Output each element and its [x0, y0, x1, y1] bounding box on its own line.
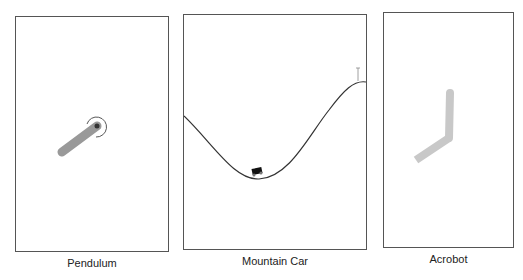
acrobot-caption: Acrobot: [383, 253, 514, 265]
mountain-car-caption: Mountain Car: [183, 255, 367, 267]
mountain-car-render: [184, 15, 366, 249]
goal-flag-icon: [356, 68, 360, 81]
pendulum-rod: [62, 126, 97, 152]
mountain-car-panel: [183, 14, 367, 250]
pendulum-caption: Pendulum: [15, 257, 169, 269]
pendulum-pivot-icon: [95, 124, 100, 129]
acrobot-render: [384, 13, 513, 247]
acrobot-panel: [383, 12, 514, 248]
acrobot-links: [416, 93, 450, 160]
pendulum-render: [16, 17, 168, 251]
mountain-track: [184, 82, 366, 179]
pendulum-panel: [15, 16, 169, 252]
car-icon: [251, 167, 262, 176]
